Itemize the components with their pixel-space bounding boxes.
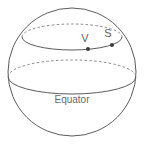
sphere-diagram-canvas: V S Equator [0,0,145,146]
point-s-label: S [104,27,111,39]
equator-label: Equator [54,94,90,105]
equator-front-arc [8,77,136,94]
point-s-dot [110,43,114,47]
sphere-outline [8,8,136,136]
equator-back-arc [8,60,136,77]
point-v-label: V [81,32,89,44]
sphere-diagram: V S Equator [0,0,145,146]
point-v-dot [86,47,90,51]
